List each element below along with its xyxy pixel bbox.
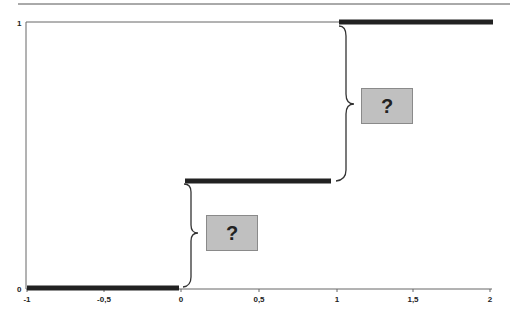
- step-chart: 1 0 -1 -0,5 0 0,5 1 1,5 2: [0, 0, 510, 316]
- x-tick-label: 0,5: [253, 295, 265, 304]
- brace-icon: [183, 184, 198, 287]
- y-tick-label-top: 1: [17, 19, 22, 28]
- question-box-2: ?: [361, 88, 413, 124]
- y-tick-label-bottom: 0: [17, 285, 22, 294]
- x-tick-label: -1: [23, 295, 31, 304]
- x-tick-label: 1,5: [407, 295, 419, 304]
- x-tick-label: 1: [335, 295, 340, 304]
- question-box-1: ?: [206, 215, 258, 251]
- brace-icon: [336, 26, 354, 181]
- x-tick-label: 2: [488, 295, 493, 304]
- x-tick-label: -0,5: [97, 295, 111, 304]
- x-tick-label: 0: [179, 295, 184, 304]
